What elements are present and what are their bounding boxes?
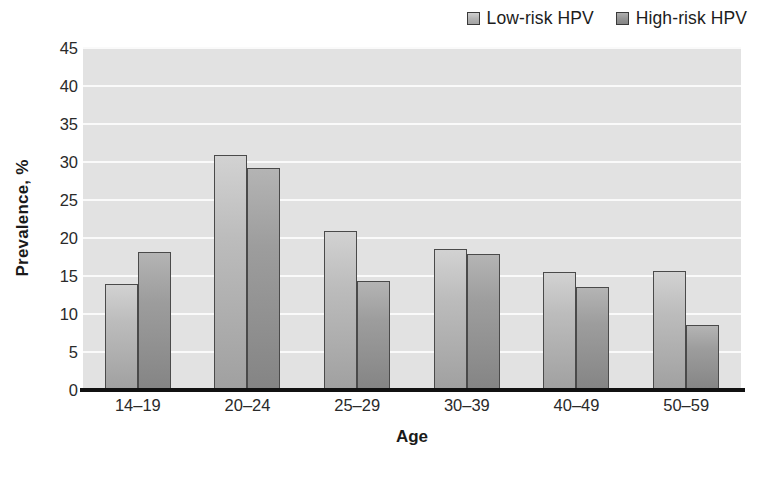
bar-low-risk	[543, 272, 576, 390]
x-axis-tick-label: 20–24	[225, 396, 271, 415]
plot-area	[83, 48, 741, 390]
bar-group	[193, 155, 303, 390]
y-axis-tick-label: 5	[40, 343, 78, 362]
bar-low-risk	[434, 249, 467, 390]
bar-low-risk	[214, 155, 247, 390]
y-axis-tick-label: 15	[40, 267, 78, 286]
bar-high-risk	[467, 254, 500, 390]
legend-label-high-risk: High-risk HPV	[636, 8, 747, 29]
bar-low-risk	[653, 271, 686, 390]
bar-group	[302, 231, 412, 390]
x-axis-tick-label: 25–29	[334, 396, 380, 415]
x-axis-title: Age	[83, 427, 741, 447]
legend-item-high-risk: High-risk HPV	[616, 8, 747, 29]
bar-low-risk	[105, 284, 138, 390]
bar-group	[83, 252, 193, 390]
bar-high-risk	[576, 287, 609, 390]
y-axis-tick-label: 20	[40, 229, 78, 248]
legend-swatch-low-risk-icon	[467, 12, 480, 25]
y-axis-tick-labels: 051015202530354045	[40, 0, 78, 477]
x-axis-tick-label: 50–59	[663, 396, 709, 415]
bar-group	[522, 272, 632, 390]
y-axis-tick-label: 0	[40, 381, 78, 400]
y-axis-tick-label: 45	[40, 39, 78, 58]
bar-group	[412, 249, 522, 390]
y-axis-tick-label: 25	[40, 191, 78, 210]
bar-group	[631, 271, 741, 390]
y-axis-tick-label: 30	[40, 153, 78, 172]
bar-low-risk	[324, 231, 357, 390]
y-axis-tick-label: 35	[40, 115, 78, 134]
bar-groups	[83, 48, 741, 390]
x-axis-tick-labels: 14–1920–2425–2930–3940–4950–59	[83, 396, 741, 426]
bar-high-risk	[357, 281, 390, 390]
y-axis-tick-label: 10	[40, 305, 78, 324]
legend-item-low-risk: Low-risk HPV	[467, 8, 594, 29]
x-axis-tick-label: 40–49	[554, 396, 600, 415]
bar-high-risk	[247, 168, 280, 390]
y-axis-title: Prevalence, %	[10, 46, 36, 390]
y-axis-tick-label: 40	[40, 77, 78, 96]
y-axis-title-text: Prevalence, %	[13, 160, 33, 277]
legend-label-low-risk: Low-risk HPV	[487, 8, 594, 29]
bar-high-risk	[138, 252, 171, 390]
bar-high-risk	[686, 325, 719, 390]
x-axis-tick-label: 14–19	[115, 396, 161, 415]
x-axis-tick-label: 30–39	[444, 396, 490, 415]
chart-legend: Low-risk HPV High-risk HPV	[0, 8, 765, 29]
legend-swatch-high-risk-icon	[616, 12, 629, 25]
x-axis-line	[80, 388, 745, 392]
